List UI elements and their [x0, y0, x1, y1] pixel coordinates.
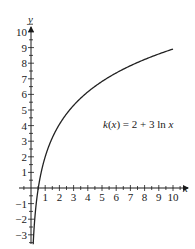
x-tick-label: 7 [128, 191, 134, 203]
x-tick-label: 10 [168, 191, 180, 203]
y-tick-label: 3 [22, 135, 28, 147]
y-tick-label: −1 [15, 198, 27, 210]
function-graph: 12345678910−3−2−112345678910 y x k(x) = … [0, 0, 195, 249]
y-tick-label: 7 [22, 73, 28, 85]
x-tick-label: 4 [85, 191, 91, 203]
y-tick-label: 9 [22, 42, 28, 54]
x-tick-label: 5 [99, 191, 105, 203]
x-axis-label: x [182, 182, 188, 194]
y-tick-label: 8 [22, 57, 28, 69]
y-tick-label: 10 [16, 26, 28, 38]
function-curve [33, 49, 173, 244]
x-tick-label: 8 [142, 191, 148, 203]
x-tick-label: 3 [71, 191, 77, 203]
y-tick-label: 2 [22, 151, 28, 163]
y-tick-label: −3 [15, 229, 27, 241]
x-tick-label: 9 [156, 191, 162, 203]
y-tick-label: 6 [22, 88, 28, 100]
x-tick-label: 6 [113, 191, 119, 203]
y-tick-label: 4 [22, 120, 28, 132]
x-tick-label: 2 [57, 191, 63, 203]
y-axis-label: y [27, 13, 33, 25]
y-tick-label: 5 [22, 104, 28, 116]
tick-marks [24, 24, 180, 242]
axes [19, 27, 188, 244]
function-label: k(x) = 2 + 3 ln x [103, 118, 174, 131]
y-tick-label: −2 [15, 213, 27, 225]
tick-labels: 12345678910−3−2−112345678910 [15, 26, 179, 241]
x-tick-label: 1 [42, 191, 48, 203]
y-tick-label: 1 [22, 166, 28, 178]
